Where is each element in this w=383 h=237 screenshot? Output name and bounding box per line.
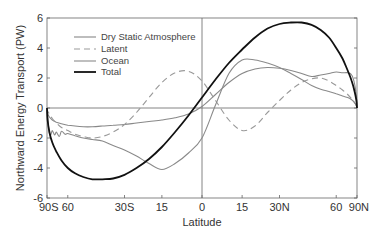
- x-tick-label: 90S: [39, 201, 59, 213]
- legend-item-dry-static: Dry Static Atmosphere: [74, 31, 196, 42]
- x-tick-label: 0: [199, 201, 205, 213]
- energy-transport-chart: 6420-2-4-6 90S6030S1501530N6090N Dry Sta…: [0, 0, 383, 237]
- legend-label-dry-static: Dry Static Atmosphere: [101, 31, 196, 42]
- y-tick-label: 2: [37, 72, 43, 84]
- legend-item-latent: Latent: [74, 43, 128, 54]
- legend-item-ocean: Ocean: [74, 55, 129, 66]
- legend-item-total: Total: [74, 66, 121, 77]
- legend-label-latent: Latent: [101, 43, 128, 54]
- y-tick-label: -4: [33, 162, 43, 174]
- y-tick-label: -2: [33, 132, 43, 144]
- legend-label-ocean: Ocean: [101, 55, 129, 66]
- y-axis-title: Northward Energy Transport (PW): [14, 25, 26, 191]
- x-tick-label: 60: [330, 201, 342, 213]
- legend-label-total: Total: [101, 66, 121, 77]
- x-tick-label: 30N: [269, 201, 289, 213]
- x-tick-label: 60: [62, 201, 74, 213]
- y-tick-label: 0: [37, 102, 43, 114]
- y-tick-label: 6: [37, 12, 43, 24]
- legend: Dry Static Atmosphere Latent Ocean Total: [74, 31, 196, 77]
- x-tick-label: 15: [236, 201, 248, 213]
- x-tick-label: 30S: [115, 201, 135, 213]
- y-tick-label: 4: [37, 42, 43, 54]
- x-axis-title: Latitude: [182, 216, 221, 228]
- x-tick-label: 90N: [349, 201, 369, 213]
- x-tick-label: 15: [156, 201, 168, 213]
